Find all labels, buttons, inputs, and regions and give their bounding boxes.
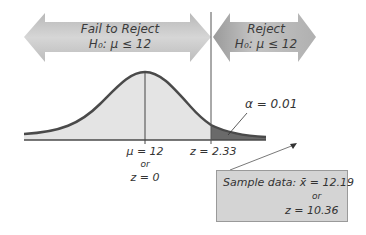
mean-or: or xyxy=(120,158,170,171)
mean-z: z = 0 xyxy=(120,171,170,184)
reject-title: Reject xyxy=(226,22,306,37)
fail-to-reject-title: Fail to Reject xyxy=(60,22,180,37)
alpha-label: α = 0.01 xyxy=(245,97,297,111)
sample-pointer-line xyxy=(230,145,294,170)
sample-z: z = 10.36 xyxy=(285,204,338,217)
reject-label: Reject H₀: μ ≤ 12 xyxy=(226,22,306,52)
fail-to-reject-label: Fail to Reject H₀: μ ≤ 12 xyxy=(60,22,180,52)
critical-z-label: z = 2.33 xyxy=(190,145,236,158)
mean-value: μ = 12 xyxy=(120,145,170,158)
reject-hypothesis: H₀: μ ≤ 12 xyxy=(226,37,306,52)
sample-xbar: Sample data: x̄ = 12.19 xyxy=(223,176,354,189)
sample-data-box: Sample data: x̄ = 12.19 or z = 10.36 xyxy=(216,170,348,222)
mean-label: μ = 12 or z = 0 xyxy=(120,145,170,184)
fail-to-reject-hypothesis: H₀: μ ≤ 12 xyxy=(60,37,180,52)
sample-or: or xyxy=(312,191,321,201)
alpha-leader-line xyxy=(228,113,247,135)
